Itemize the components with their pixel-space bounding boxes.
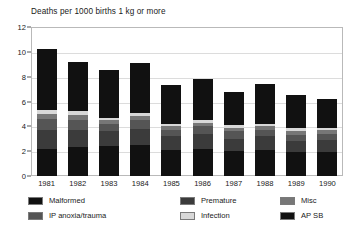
gridline xyxy=(32,53,342,54)
plot-area xyxy=(31,27,343,176)
legend-swatch xyxy=(28,197,43,205)
legend-label: Malformed xyxy=(49,196,85,205)
gridline xyxy=(32,103,342,104)
legend-label: Premature xyxy=(201,196,236,205)
legend-label: Misc xyxy=(301,196,317,205)
legend-swatch xyxy=(180,197,195,205)
legend-item: Premature xyxy=(180,196,236,205)
x-axis-tick-label: 1988 xyxy=(257,179,274,188)
gridline xyxy=(32,152,342,153)
legend-swatch xyxy=(280,212,295,220)
x-axis-tick-label: 1983 xyxy=(101,179,118,188)
chart-legend: MalformedIP anoxia/traumaPrematureInfect… xyxy=(28,196,348,226)
x-axis-tick-label: 1987 xyxy=(225,179,242,188)
legend-item: IP anoxia/trauma xyxy=(28,211,106,220)
legend-item: Misc xyxy=(280,196,317,205)
legend-label: Infection xyxy=(201,211,230,220)
legend-swatch xyxy=(180,212,195,220)
y-axis-tick-label: 8 xyxy=(22,72,26,81)
x-axis-tick-label: 1985 xyxy=(163,179,180,188)
y-axis-tick-label: 2 xyxy=(22,147,26,156)
y-axis-tick-label: 6 xyxy=(22,97,26,106)
x-axis: 1981198219831984198519861987198819891990 xyxy=(31,177,343,191)
y-axis-tick-label: 0 xyxy=(22,172,26,181)
x-axis-tick-label: 1982 xyxy=(69,179,86,188)
gridlines xyxy=(32,28,342,175)
y-axis-tick-label: 4 xyxy=(22,122,26,131)
chart-container: Deaths per 1000 births 1 kg or more 0246… xyxy=(0,0,360,233)
gridline xyxy=(32,127,342,128)
y-axis: 024681012 xyxy=(0,27,31,176)
gridline xyxy=(32,78,342,79)
chart-title: Deaths per 1000 births 1 kg or more xyxy=(31,7,166,16)
x-axis-tick-label: 1986 xyxy=(194,179,211,188)
legend-item: Infection xyxy=(180,211,230,220)
legend-label: AP SB xyxy=(301,211,323,220)
x-axis-tick-label: 1981 xyxy=(38,179,55,188)
y-axis-tick-label: 10 xyxy=(18,47,26,56)
legend-swatch xyxy=(280,197,295,205)
x-axis-tick-label: 1984 xyxy=(132,179,149,188)
y-axis-tick-label: 12 xyxy=(18,23,26,32)
x-axis-tick-label: 1990 xyxy=(319,179,336,188)
legend-item: AP SB xyxy=(280,211,323,220)
legend-label: IP anoxia/trauma xyxy=(49,211,106,220)
legend-item: Malformed xyxy=(28,196,85,205)
legend-swatch xyxy=(28,212,43,220)
x-axis-tick-label: 1989 xyxy=(288,179,305,188)
